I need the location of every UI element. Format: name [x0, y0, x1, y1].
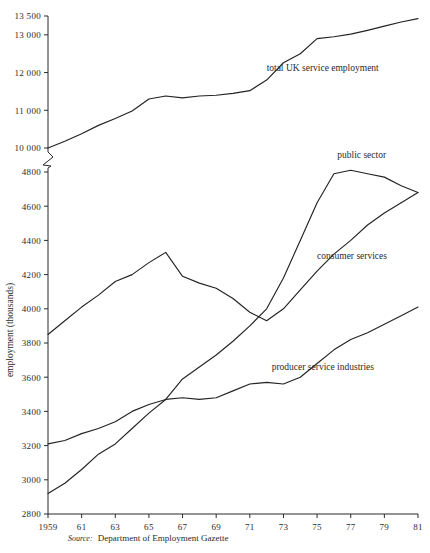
y-tick-label: 3600 — [22, 373, 41, 383]
y-tick-label: 3800 — [22, 338, 41, 348]
y-tick-label: 11 000 — [15, 106, 41, 116]
x-tick-label: 69 — [211, 522, 221, 532]
x-tick-label: 77 — [346, 522, 356, 532]
source-label: Source: — [68, 534, 93, 543]
y-tick-label: 4600 — [22, 202, 41, 212]
y-tick-label: 2800 — [22, 509, 41, 519]
y-tick-label: 10 000 — [14, 143, 41, 153]
series-label-public-sector: public sector — [337, 150, 387, 160]
employment-line-chart: 10 00011 00012 00013 00013 5002800300032… — [0, 0, 430, 553]
y-axis-title: employment (thousands) — [5, 283, 16, 377]
source-note: Source: Department of Employment Gazette — [68, 533, 229, 543]
y-tick-label: 3000 — [22, 475, 41, 485]
chart-figure: 10 00011 00012 00013 00013 5002800300032… — [0, 0, 430, 553]
y-tick-label: 4800 — [22, 167, 41, 177]
y-tick-label: 4200 — [22, 270, 41, 280]
x-tick-label: 75 — [312, 522, 322, 532]
y-tick-label: 13 000 — [14, 30, 41, 40]
x-tick-label: 71 — [245, 522, 255, 532]
source-text: Department of Employment Gazette — [98, 533, 229, 543]
x-tick-label: 73 — [279, 522, 289, 532]
x-tick-label: 1959 — [38, 522, 57, 532]
y-tick-label: 12 000 — [14, 68, 41, 78]
x-tick-label: 79 — [380, 522, 390, 532]
series-label-producer-service-industries: producer service industries — [272, 362, 375, 372]
y-tick-label: 4400 — [22, 236, 41, 246]
series-label-total-uk-service-employment: total UK service employment — [267, 63, 379, 73]
x-tick-label: 81 — [413, 522, 423, 532]
y-tick-label: 4000 — [22, 304, 41, 314]
y-tick-label: 13 500 — [14, 11, 41, 21]
y-tick-label: 3200 — [22, 441, 41, 451]
y-tick-label: 3400 — [22, 407, 41, 417]
x-tick-label: 63 — [110, 522, 120, 532]
x-tick-label: 67 — [178, 522, 188, 532]
series-label-consumer-services: consumer services — [317, 251, 387, 261]
chart-background — [0, 0, 430, 553]
x-tick-label: 65 — [144, 522, 154, 532]
x-tick-label: 61 — [77, 522, 87, 532]
